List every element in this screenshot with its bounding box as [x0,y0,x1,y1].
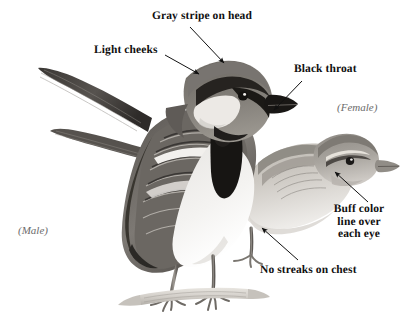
male-tail [38,68,152,161]
annotation-light-cheeks: Light cheeks [94,44,158,57]
annotation-buff-line-1: Buff color [320,203,398,216]
sex-label-female: (Female) [337,101,377,113]
annotation-buff-color-line-over-each-eye: Buff color line over each eye [320,203,398,241]
sex-label-male: (Male) [18,224,48,236]
male-eye [238,91,248,100]
sparrow-field-guide-plate: Gray stripe on head Light cheeks Black t… [0,0,407,324]
annotation-buff-line-3: each eye [320,228,398,241]
perch-branch [118,288,270,306]
annotation-black-throat: Black throat [294,63,357,76]
annotation-no-streaks-on-chest: No streaks on chest [260,264,357,277]
annotation-gray-stripe-on-head: Gray stripe on head [152,10,252,23]
annotation-buff-line-2: line over [320,216,398,229]
female-eye [346,157,354,165]
